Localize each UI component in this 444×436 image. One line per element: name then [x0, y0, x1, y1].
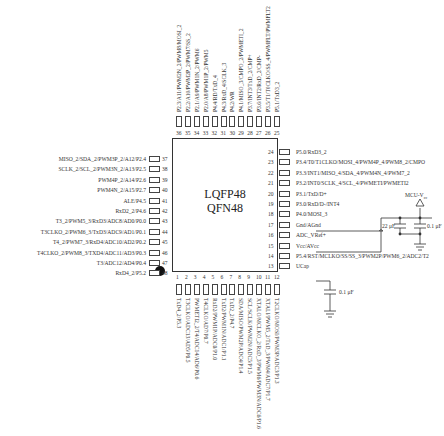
pin-number: 6 [221, 274, 224, 280]
pin-label: SCL/SCLK/PWM2N/ADC5/P1.5 [247, 298, 253, 374]
pin-number: 17 [268, 222, 274, 228]
pin-number: 41 [162, 198, 168, 204]
pin-label: ADC_VRef+ [296, 232, 326, 238]
pin-pad [149, 250, 160, 256]
pin-pad [221, 284, 227, 295]
pin-label: RxD2_2/P4.6 [115, 208, 146, 214]
pin-label: TxD2_2/P4.7 [229, 298, 235, 328]
pin-label: RxD4_2/P5.2 [115, 270, 146, 276]
pin-label: T3/ADC12/AD4/P0.4 [97, 260, 146, 266]
pin-label: P3.4/T0/T1CLKO/MOSI_4/PWM4P_4/PWM8_2/CMP… [296, 159, 425, 165]
pin-label: RxD2/PWM1P/ADC0/P1.0 [212, 298, 218, 360]
pin-label: T3CLKO/ADC13/AD5/P0.5 [185, 298, 191, 363]
pin-number: 19 [268, 201, 274, 207]
pin-number: 12 [274, 274, 280, 280]
pin-pad [176, 116, 182, 127]
pin-pad [203, 116, 209, 127]
pin-number: 33 [203, 130, 209, 136]
pin-label: XTALI/PWM5_2/TxD_3/PWM4/ADC7/P1.7 [265, 298, 271, 401]
pin-number: 3 [194, 274, 197, 280]
pin-label: T3_2/PWM5_3/RxD3/ADC8/AD0/P0.0 [56, 218, 146, 224]
pin-label: P5.0/RxD3_2 [296, 149, 327, 155]
pin-number: 13 [268, 263, 274, 269]
pin-pad [149, 166, 160, 172]
pin-pad [279, 191, 290, 197]
pin-number: 25 [274, 130, 280, 136]
pin-number: 16 [268, 232, 274, 238]
pin-number: 47 [162, 260, 168, 266]
pin-number: 35 [185, 130, 191, 136]
pin-label: P2.2/A10/PWM2P_2/PWM7/SS_2 [185, 33, 191, 112]
pin-number: 11 [265, 274, 270, 280]
pin-number: 4 [203, 274, 206, 280]
pin-label: P2.0/A8/PWM1P_2/PWM5 [203, 49, 209, 112]
pin-label: PWM4N_2/A15/P2.7 [97, 187, 146, 193]
pin-label: SDA/MISO/PWM2P/ADC4/P1.4 [238, 298, 244, 373]
pin-pad [149, 208, 160, 214]
pin-number: 14 [268, 253, 274, 259]
pin-label: T4CLKO/AD7/P0.7 [203, 298, 209, 344]
pin-pad [149, 187, 160, 193]
pin-pad [279, 201, 290, 207]
pin-pad [256, 116, 262, 127]
pin-label: UCap [296, 263, 309, 269]
cap-bulk-label: 22 μF [382, 223, 395, 229]
pin-pad [247, 284, 253, 295]
pin-label: P3.5/T1/T0CLKO/SS_4/PWMFLT/PWMFLT2 [265, 6, 271, 112]
pin-pad [279, 243, 290, 249]
pin-pad [149, 229, 160, 235]
pin-pad [149, 239, 160, 245]
pin-number: 31 [221, 130, 227, 136]
pin-pad [229, 284, 235, 295]
pin-number: 42 [162, 208, 168, 214]
pin-pad [279, 149, 290, 155]
pin-number: 48 [162, 270, 168, 276]
pin-label: P5.4/RST/MCLKO/SS/SS_3/PWM2P/PWM6_2/ADC2… [296, 253, 429, 259]
pin-label: Gnd/AGnd [296, 222, 321, 228]
pin-number: 5 [212, 274, 215, 280]
pin-pad [279, 170, 290, 176]
pin-pad [279, 232, 290, 238]
pin-number: 27 [256, 130, 262, 136]
pin-label: MISO_2/SDA_2/PWM3P_2/A12/P2.4 [59, 156, 146, 162]
pin-number: 23 [268, 159, 274, 165]
package-name-lqfp: LQFP48 [173, 187, 277, 201]
pin-number: 26 [265, 130, 271, 136]
pin-label: P3.0/RxD/D-/INT4 [296, 201, 339, 207]
pin-pad [203, 284, 209, 295]
pin-pad [212, 116, 218, 127]
pin-label: P4.1/MISO_3/CMPO_2/PWMETI_2 [238, 29, 244, 112]
pin-pad [149, 177, 160, 183]
pin-pad [176, 284, 182, 295]
pin-number: 40 [162, 187, 168, 193]
pin-pad [279, 222, 290, 228]
pin-label: XTALO/MCLKO_2/RxD_3/PWM6/PWM3N/ADC6/P1.6 [256, 298, 262, 429]
pin-number: 38 [162, 166, 168, 172]
pin-pad [279, 211, 290, 217]
pin-label: P4.3/RxD_4/SCLK_3 [221, 63, 227, 112]
pin-label: P4.0/MOSI_3 [296, 211, 327, 217]
pin-pad [274, 284, 280, 295]
pin-number: 45 [162, 239, 168, 245]
package-name-qfn: QFN48 [173, 201, 277, 215]
pin-pad [238, 116, 244, 127]
pin-label: P2.1/A9/PWM1N_2/PWM6 [194, 48, 200, 112]
pin-pad [149, 218, 160, 224]
pin-pad [149, 270, 160, 276]
pin-label: SCLK_2/SCL_2/PWM3N_2/A13/P2.5 [59, 166, 147, 172]
cap-ucap-label: 0.1 μF [339, 289, 354, 295]
pin-pad [265, 116, 271, 127]
pin-number: 8 [238, 274, 241, 280]
pin-pad [265, 284, 271, 295]
pin-pad [279, 263, 290, 269]
pin-pad [149, 198, 160, 204]
pin-number: 44 [162, 229, 168, 235]
pin-number: 22 [268, 170, 274, 176]
pin-label: T2CLKO/MOSI/PWM3P/ADC3/P1.3 [274, 298, 280, 384]
pin-label: P5.1/TxD3_2 [274, 82, 280, 112]
pin-pad [229, 116, 235, 127]
pin-pad [279, 159, 290, 165]
pin-pad [149, 260, 160, 266]
cap-decoupling-label: 0.1 μF [427, 223, 442, 229]
pin-number: 39 [162, 177, 168, 183]
